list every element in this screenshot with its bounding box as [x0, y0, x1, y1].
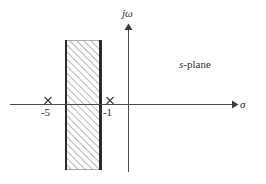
s-plane-figure: jω σ s-plane -5 -1: [0, 0, 266, 184]
pole-marker-minus-1: [107, 97, 114, 104]
jomega-axis: [125, 24, 133, 173]
figure-canvas: [0, 0, 266, 184]
tick-label-minus-1: -1: [103, 107, 112, 118]
sigma-axis-arrowhead: [232, 101, 239, 109]
s-plane-annotation: s-plane: [179, 59, 211, 70]
jomega-axis-arrowhead: [125, 24, 133, 31]
tick-label-minus-5: -5: [41, 107, 50, 118]
pole-marker-minus-5: [45, 97, 52, 104]
jomega-axis-label: jω: [122, 8, 133, 19]
s-plane-suffix: -plane: [183, 58, 210, 70]
sigma-axis-label: σ: [240, 99, 245, 110]
